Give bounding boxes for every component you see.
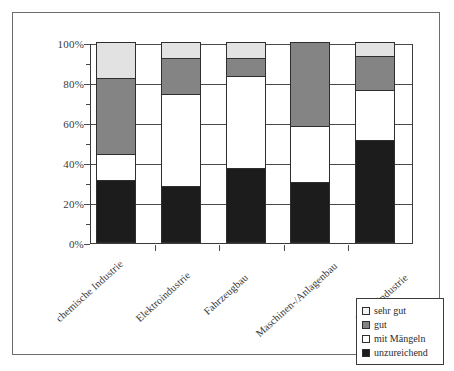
bar-segment-gut[interactable] <box>96 78 136 155</box>
y-axis-tick-label: 80% <box>63 78 84 90</box>
x-axis-label: Maschinen-/Anlagenbau <box>254 260 340 339</box>
chart-page: 0%20%40%60%80%100% chemische IndustrieEl… <box>0 0 454 371</box>
x-axis-label: Elektroindustrie <box>134 269 193 324</box>
legend-item[interactable]: sehr gut <box>362 304 438 317</box>
x-axis-tick <box>284 245 285 251</box>
bar-segment-sehr-gut[interactable] <box>96 42 136 79</box>
bar-segment-gut[interactable] <box>290 42 330 127</box>
stacked-bar[interactable] <box>290 44 330 243</box>
chart-legend: sehr gutgutmit Mängelnunzureichend <box>356 298 444 365</box>
bar-segment-mit-maengeln[interactable] <box>290 126 330 183</box>
bar-segment-mit-maengeln[interactable] <box>226 76 266 169</box>
plot-area <box>90 44 413 244</box>
y-axis-tick-label: 20% <box>63 198 84 210</box>
legend-swatch-gut <box>362 321 370 329</box>
bar-segment-sehr-gut[interactable] <box>355 42 395 57</box>
bar-segment-sehr-gut[interactable] <box>226 42 266 59</box>
bar-group[interactable] <box>355 44 395 243</box>
bar-group[interactable] <box>161 44 201 243</box>
bar-group[interactable] <box>226 44 266 243</box>
x-axis-label: chemische Industrie <box>54 258 125 324</box>
stacked-bar[interactable] <box>226 44 266 243</box>
bar-segment-unzureichend[interactable] <box>226 168 266 243</box>
bar-segment-gut[interactable] <box>161 58 201 95</box>
figure-frame: 0%20%40%60%80%100% chemische IndustrieEl… <box>12 12 440 355</box>
x-axis-ticks <box>90 245 413 253</box>
legend-swatch-mit-maengeln <box>362 335 370 343</box>
legend-item[interactable]: unzureichend <box>362 346 438 359</box>
bar-group[interactable] <box>290 44 330 243</box>
bar-segment-mit-maengeln[interactable] <box>96 154 136 181</box>
bar-segment-unzureichend[interactable] <box>355 140 395 243</box>
y-axis-tick-label: 0% <box>69 238 84 250</box>
x-axis-tick <box>155 245 156 251</box>
bar-group[interactable] <box>96 44 136 243</box>
bar-segment-unzureichend[interactable] <box>161 186 201 243</box>
x-axis-label: Fahrzeugbau <box>202 272 250 317</box>
x-axis-tick <box>348 245 349 251</box>
legend-label: unzureichend <box>374 347 428 358</box>
legend-label: gut <box>374 319 387 330</box>
bar-segment-gut[interactable] <box>226 58 266 77</box>
y-axis-tick-label: 60% <box>63 118 84 130</box>
y-axis-tick-label: 100% <box>58 38 84 50</box>
legend-swatch-unzureichend <box>362 349 370 357</box>
bar-segment-sehr-gut[interactable] <box>161 42 201 59</box>
stacked-bar[interactable] <box>96 44 136 243</box>
bar-segment-unzureichend[interactable] <box>290 182 330 243</box>
legend-label: mit Mängeln <box>374 333 425 344</box>
bar-segment-unzureichend[interactable] <box>96 180 136 243</box>
y-axis-tick-label: 40% <box>63 158 84 170</box>
y-axis: 0%20%40%60%80%100% <box>43 44 90 244</box>
legend-item[interactable]: mit Mängeln <box>362 332 438 345</box>
legend-swatch-sehr-gut <box>362 307 370 315</box>
stacked-bar[interactable] <box>161 44 201 243</box>
legend-label: sehr gut <box>374 305 406 316</box>
bar-segment-mit-maengeln[interactable] <box>355 90 395 141</box>
bar-segment-mit-maengeln[interactable] <box>161 94 201 187</box>
stacked-bar[interactable] <box>355 44 395 243</box>
x-axis-tick <box>219 245 220 251</box>
bar-segment-gut[interactable] <box>355 56 395 91</box>
legend-item[interactable]: gut <box>362 318 438 331</box>
